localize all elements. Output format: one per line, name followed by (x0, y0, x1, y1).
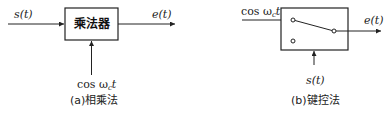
input-label: s(t) (14, 8, 33, 21)
caption-a: (a)相乘法 (70, 93, 118, 107)
diagram-a-multiplier-method: s(t) 乘法器 e(t) cos ωct (a)相乘法 (8, 8, 175, 107)
modulation-diagrams: s(t) 乘法器 e(t) cos ωct (a)相乘法 cos ωct e(t… (0, 0, 388, 117)
output-label: e(t) (152, 8, 172, 21)
switch-contact-bottom (291, 39, 295, 43)
caption-b: (b)键控法 (291, 93, 340, 107)
control-label: s(t) (306, 74, 325, 87)
carrier-label-b: cos ωct (241, 5, 281, 19)
switch-contact-top (291, 18, 295, 22)
switch-block (281, 8, 348, 50)
multiplier-label: 乘法器 (73, 16, 111, 31)
output-label-b: e(t) (364, 14, 384, 27)
switch-pivot (332, 29, 336, 33)
carrier-label: cos ωct (77, 78, 117, 92)
diagram-b-keying-method: cos ωct e(t) s(t) (b)键控法 (241, 5, 384, 107)
